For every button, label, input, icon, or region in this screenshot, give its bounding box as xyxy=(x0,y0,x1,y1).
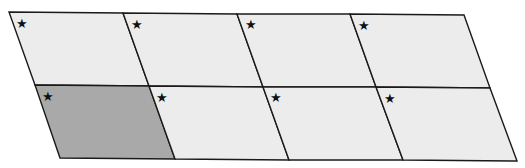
star-icon: ★ xyxy=(42,89,54,104)
star-icon: ★ xyxy=(156,90,168,105)
parallelogram-grid: ★ ★ ★ ★ ★ ★ ★ ★ xyxy=(0,0,525,168)
star-icon: ★ xyxy=(270,90,282,105)
star-icon: ★ xyxy=(16,16,28,31)
star-icon: ★ xyxy=(131,17,143,32)
star-icon: ★ xyxy=(245,17,257,32)
star-icon: ★ xyxy=(384,91,396,106)
star-icon: ★ xyxy=(358,18,370,33)
